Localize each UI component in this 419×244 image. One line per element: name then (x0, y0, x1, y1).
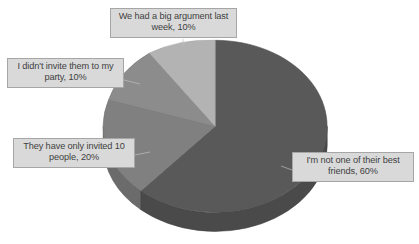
pie-top-face (103, 40, 327, 212)
pie-chart: We had a big argument last week, 10% I d… (0, 0, 419, 244)
data-label-big-argument[interactable]: We had a big argument last week, 10% (110, 8, 237, 38)
data-label-didnt-invite-to-party[interactable]: I didn't invite them to my party, 10% (7, 58, 124, 88)
data-label-best-friends[interactable]: I'm not one of their best friends, 60% (292, 152, 414, 182)
data-label-invited-10-people[interactable]: They have only invited 10 people, 20% (13, 138, 135, 168)
